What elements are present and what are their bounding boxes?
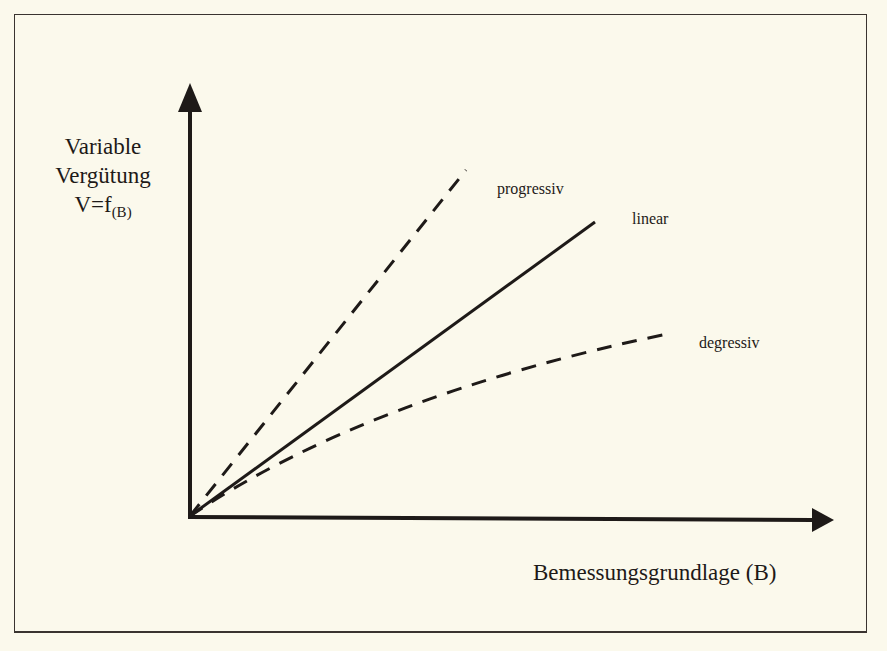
y-axis-arrow-icon xyxy=(178,83,202,112)
curve-linear xyxy=(190,222,595,516)
vergutung-function-diagram xyxy=(0,0,887,651)
x-axis-arrow-icon xyxy=(812,508,834,532)
y-axis-formula: V=f(B) xyxy=(40,190,166,219)
formula-subscript: (B) xyxy=(112,204,132,220)
x-axis xyxy=(188,517,812,520)
curve-progressiv xyxy=(190,170,466,516)
label-progressiv: progressiv xyxy=(497,180,564,198)
y-axis-label-line1: Variable xyxy=(40,132,166,161)
y-axis-label-line2: Vergütung xyxy=(40,161,166,190)
label-degressiv: degressiv xyxy=(699,334,759,352)
x-axis-label: Bemessungsgrundlage (B) xyxy=(533,560,776,586)
label-linear: linear xyxy=(632,210,668,228)
formula-text: V=f xyxy=(74,192,111,217)
y-axis-label: Variable Vergütung V=f(B) xyxy=(40,132,166,219)
